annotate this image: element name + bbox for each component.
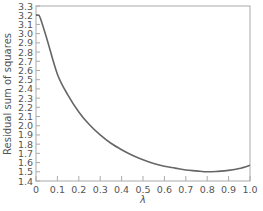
x-tick-label: 0.4: [114, 184, 129, 195]
x-tick-label: 0.8: [200, 184, 215, 195]
x-tick-label: 0.6: [157, 184, 172, 195]
x-tick-label: 0.2: [71, 184, 86, 195]
plot-frame: [36, 6, 250, 181]
x-tick-label: 0: [33, 184, 39, 195]
x-tick-label: 1.0: [242, 184, 257, 195]
y-tick-label: 3.3: [18, 1, 33, 12]
rss-vs-lambda-chart: 1.41.51.61.71.81.92.02.12.22.32.42.52.62…: [0, 0, 263, 211]
x-axis-ticks: 00.10.20.30.40.50.60.70.80.91.0: [33, 176, 258, 195]
x-axis-label: λ: [139, 194, 146, 205]
x-tick-label: 0.1: [50, 184, 65, 195]
y-axis-label: Residual sum of squares: [2, 33, 13, 155]
x-tick-label: 0.9: [221, 184, 236, 195]
y-axis-ticks: 1.41.51.61.71.81.92.02.12.22.32.42.52.62…: [18, 1, 40, 187]
x-tick-label: 0.7: [178, 184, 193, 195]
rss-curve: [36, 15, 250, 172]
x-tick-label: 0.3: [93, 184, 108, 195]
